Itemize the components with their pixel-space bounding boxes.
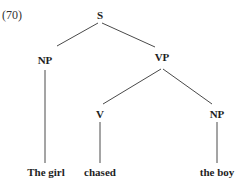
example-number: (70) bbox=[2, 8, 22, 23]
node-np-object: NP bbox=[210, 109, 225, 120]
edge-group bbox=[45, 23, 217, 163]
node-np-subject: NP bbox=[38, 55, 53, 66]
edge-vp-np2 bbox=[163, 69, 212, 104]
edge-s-np1 bbox=[57, 23, 98, 46]
tree-edges bbox=[0, 0, 248, 189]
leaf-the-boy: the boy bbox=[200, 167, 235, 178]
node-vp: VP bbox=[155, 52, 170, 63]
node-s: S bbox=[97, 10, 103, 21]
leaf-the-girl: The girl bbox=[27, 167, 65, 178]
node-v: V bbox=[96, 109, 104, 120]
edge-vp-v bbox=[103, 69, 161, 104]
edge-s-vp bbox=[102, 23, 155, 47]
leaf-chased: chased bbox=[84, 167, 116, 178]
